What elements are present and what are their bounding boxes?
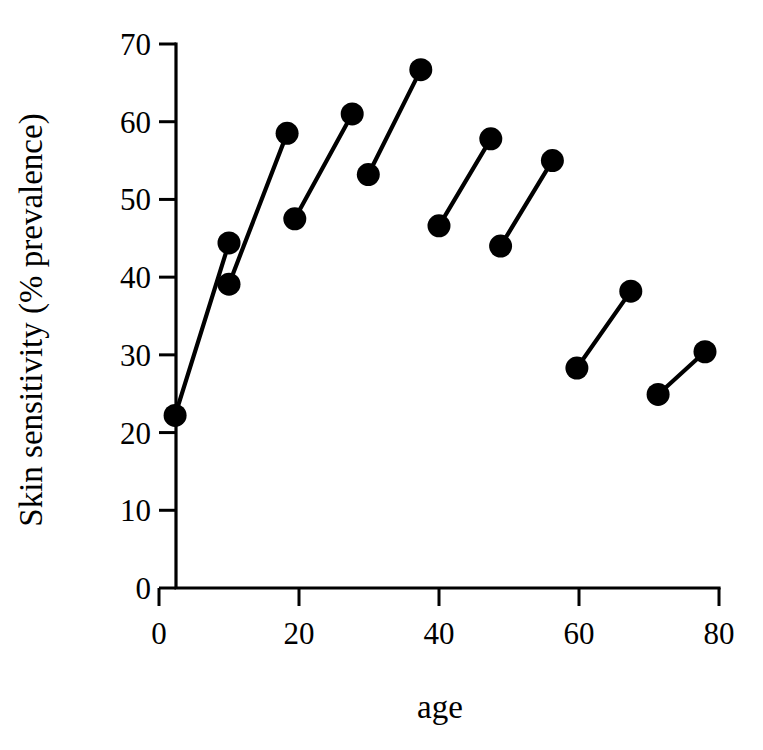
data-point-marker xyxy=(694,340,717,363)
data-point-marker xyxy=(218,273,241,296)
x-tick-label: 60 xyxy=(564,616,595,651)
data-point-marker xyxy=(541,149,564,172)
data-point-marker xyxy=(647,383,670,406)
data-point-marker xyxy=(276,122,299,145)
data-point-marker xyxy=(357,163,380,186)
data-point-marker xyxy=(565,357,588,380)
y-tick-label: 60 xyxy=(120,105,151,140)
x-tick-label: 80 xyxy=(704,616,735,651)
data-point-marker xyxy=(341,102,364,125)
y-tick-label: 0 xyxy=(136,571,152,606)
x-tick-label: 20 xyxy=(284,616,315,651)
x-tick-label: 0 xyxy=(151,616,167,651)
data-point-marker xyxy=(479,127,502,150)
data-segment xyxy=(229,133,287,284)
x-axis-label: age xyxy=(417,689,463,725)
data-segment xyxy=(501,161,553,246)
data-point-marker xyxy=(489,235,512,258)
y-tick-label: 20 xyxy=(120,416,151,451)
y-axis-ticks: 010203040506070 xyxy=(120,27,176,606)
data-point-marker xyxy=(283,207,306,230)
data-segment xyxy=(577,291,631,368)
y-tick-label: 10 xyxy=(120,493,151,528)
data-point-marker xyxy=(218,231,241,254)
data-segment xyxy=(175,243,229,416)
skin-sensitivity-scatter-line-chart: 010203040506070 020406080 Skin sensitivi… xyxy=(0,0,763,750)
data-segment xyxy=(439,139,491,226)
axis-spines xyxy=(176,44,719,588)
data-segment xyxy=(368,70,421,175)
y-tick-label: 40 xyxy=(120,260,151,295)
data-point-marker xyxy=(428,214,451,237)
data-line-segments xyxy=(175,70,705,416)
data-point-marker xyxy=(164,404,187,427)
data-segment xyxy=(295,114,352,219)
y-tick-label: 70 xyxy=(120,27,151,62)
x-axis-ticks: 020406080 xyxy=(151,588,734,651)
y-tick-label: 50 xyxy=(120,182,151,217)
axes xyxy=(176,44,719,588)
y-tick-label: 30 xyxy=(120,338,151,373)
chart-page: 010203040506070 020406080 Skin sensitivi… xyxy=(0,0,763,750)
data-point-marker xyxy=(619,280,642,303)
data-point-marker xyxy=(409,58,432,81)
x-tick-label: 40 xyxy=(424,616,455,651)
y-axis-label: Skin sensitivity (% prevalence) xyxy=(13,113,50,526)
